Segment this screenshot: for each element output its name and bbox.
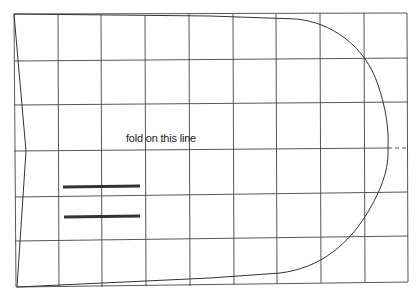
fold-label: fold on this line <box>126 132 196 144</box>
grid <box>14 13 408 287</box>
pattern-diagram <box>0 0 418 295</box>
